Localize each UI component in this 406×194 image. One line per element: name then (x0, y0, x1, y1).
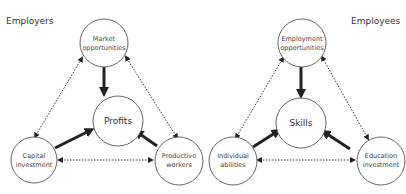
svg-text:Employment: Employment (281, 35, 323, 43)
node-individual-abilities: Individual abilities (209, 137, 257, 185)
employers-diagram: Employers Market opportunities Profits C… (6, 16, 203, 185)
svg-text:workers: workers (166, 161, 192, 169)
svg-text:abilities: abilities (220, 161, 246, 169)
employees-diagram: Employees Employment opportunities Skill… (209, 16, 405, 185)
svg-text:investment: investment (16, 161, 53, 169)
dotted-arrow-education-employment (322, 57, 367, 137)
node-skills: Skills (276, 98, 326, 148)
diagram-canvas: Employers Market opportunities Profits C… (0, 0, 406, 194)
node-education-investment: Education investment (357, 137, 405, 185)
node-productive-workers: Productive workers (155, 137, 203, 185)
employees-title: Employees (351, 16, 401, 26)
employers-title: Employers (6, 16, 54, 26)
node-capital-investment: Capital investment (11, 137, 57, 183)
arrow-capital-to-profits (55, 130, 91, 148)
svg-text:Individual: Individual (217, 152, 249, 160)
svg-text:Capital: Capital (23, 152, 46, 160)
arrow-workers-to-profits (137, 132, 157, 146)
dotted-arrow-capital-market (36, 58, 82, 135)
svg-text:investment: investment (363, 161, 400, 169)
arrow-individual-to-skills (253, 131, 278, 147)
node-profits: Profits (93, 96, 143, 146)
svg-text:Skills: Skills (289, 118, 312, 128)
svg-text:Market: Market (93, 35, 116, 43)
svg-text:Profits: Profits (104, 116, 132, 126)
node-market-opportunities: Market opportunities (80, 19, 128, 67)
svg-text:opportunities: opportunities (280, 44, 324, 52)
arrow-education-to-skills (324, 132, 350, 149)
node-employment-opportunities: Employment opportunities (278, 19, 326, 67)
svg-text:opportunities: opportunities (82, 44, 126, 52)
svg-text:Productive: Productive (162, 152, 196, 160)
svg-text:Education: Education (365, 152, 397, 160)
